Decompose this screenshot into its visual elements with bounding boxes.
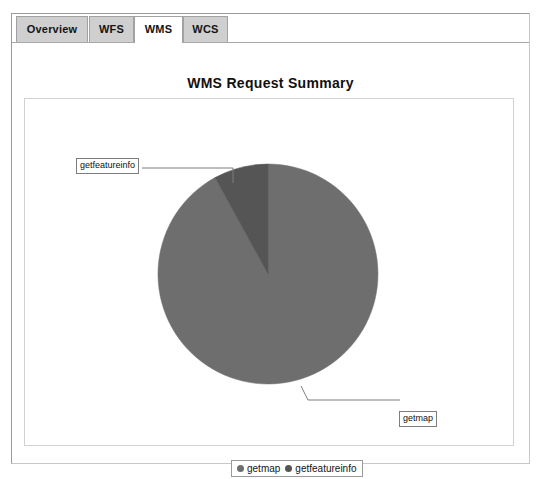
tab-wms[interactable]: WMS — [134, 16, 183, 42]
legend-item-getfeatureinfo[interactable]: getfeatureinfo — [285, 463, 356, 474]
tab-wcs[interactable]: WCS — [183, 16, 228, 42]
tab-wfs[interactable]: WFS — [89, 16, 134, 42]
callout-label-getmap: getmap — [399, 411, 437, 427]
callout-label-getfeatureinfo: getfeatureinfo — [76, 158, 139, 174]
chart-legend: getmap getfeatureinfo — [231, 460, 363, 477]
legend-label-getfeatureinfo: getfeatureinfo — [295, 463, 356, 474]
chart-title: WMS Request Summary — [12, 75, 529, 91]
legend-swatch-icon-getmap — [237, 465, 244, 472]
legend-label-getmap: getmap — [247, 463, 280, 474]
legend-swatch-icon-getfeatureinfo — [285, 465, 292, 472]
legend-item-getmap[interactable]: getmap — [237, 463, 280, 474]
chart-panel: WMS Request Summary getfeatureinfo getma… — [12, 43, 529, 463]
plot-area — [24, 98, 514, 446]
app-screenshot: Overview WFS WMS WCS WMS Request Summary… — [0, 0, 538, 479]
tab-bar: Overview WFS WMS WCS — [12, 14, 529, 43]
report-window: Overview WFS WMS WCS WMS Request Summary… — [11, 13, 530, 464]
tab-overview[interactable]: Overview — [16, 16, 88, 42]
